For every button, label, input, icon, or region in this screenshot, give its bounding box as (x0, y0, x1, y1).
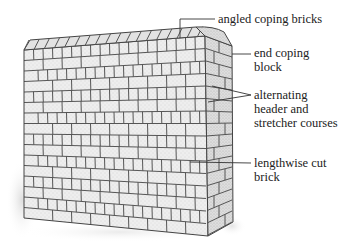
label-line: lengthwise cut (254, 156, 327, 170)
brick-wall-diagram: angled coping bricks end coping block al… (0, 0, 340, 249)
wall-front-face (20, 30, 215, 245)
label-angled-coping-bricks: angled coping bricks (218, 12, 322, 26)
label-line: stretcher courses (254, 116, 338, 130)
label-lengthwise-cut-brick: lengthwise cut brick (254, 156, 327, 184)
label-line: alternating (254, 88, 338, 102)
label-alternating-courses: alternating header and stretcher courses (254, 88, 338, 130)
label-end-coping-block: end coping block (254, 46, 309, 74)
label-line: end coping (254, 46, 309, 60)
label-line: header and (254, 102, 338, 116)
label-line: angled coping bricks (218, 12, 322, 26)
label-line: brick (254, 170, 327, 184)
label-line: block (254, 60, 309, 74)
